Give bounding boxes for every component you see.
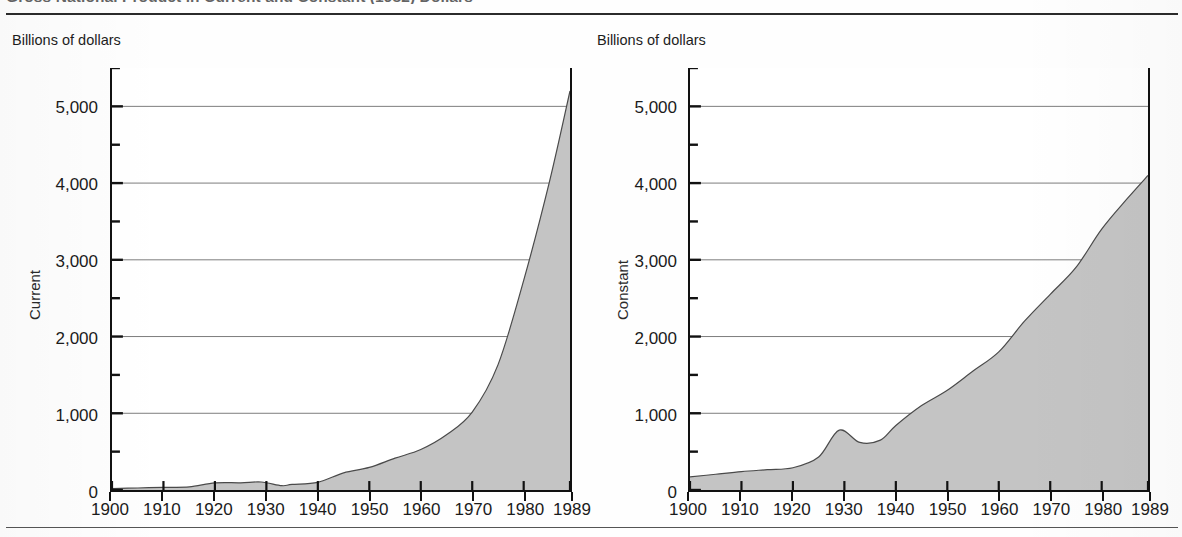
x-axis-ticks-constant: 1900191019201930194019501960197019801989: [688, 500, 1150, 524]
x-tick-label: 1910: [721, 500, 759, 520]
x-tick-label: 1950: [929, 500, 967, 520]
x-tick-label: 1910: [143, 500, 181, 520]
x-tick-label: 1920: [773, 500, 811, 520]
constant-dollars-area-chart: [690, 68, 1148, 490]
x-tick-label: 1900: [91, 500, 129, 520]
y-axis-ticks-current: 01,0002,0003,0004,0005,000: [12, 68, 98, 492]
figure-page: Gross National Product in Current and Co…: [0, 0, 1182, 537]
y-tick-label: 3,000: [55, 252, 98, 269]
y-tick-label: 0: [668, 484, 677, 501]
y-tick-label: 3,000: [634, 252, 677, 269]
y-tick-label: 5,000: [634, 98, 677, 115]
units-label-right: Billions of dollars: [597, 32, 706, 48]
panel-current: Billions of dollars 01,0002,0003,0004,00…: [0, 0, 591, 537]
x-tick-label: 1960: [981, 500, 1019, 520]
x-tick-label: 1930: [825, 500, 863, 520]
x-tick-label: 1970: [454, 500, 492, 520]
units-label-left: Billions of dollars: [12, 32, 121, 48]
series-area-fill: [690, 175, 1148, 490]
plot-area-constant: [688, 68, 1150, 492]
y-tick-label: 4,000: [55, 175, 98, 192]
panel-constant: Billions of dollars 01,0002,0003,0004,00…: [591, 0, 1182, 537]
y-tick-label: 2,000: [55, 329, 98, 346]
y-tick-label: 1,000: [55, 406, 98, 423]
y-axis-title-current: Current: [26, 270, 43, 320]
x-tick-label: 1989: [553, 500, 591, 520]
y-axis-ticks-constant: 01,0002,0003,0004,0005,000: [591, 68, 677, 492]
y-axis-title-constant: Constant: [614, 260, 631, 320]
x-tick-label: 1940: [299, 500, 337, 520]
x-tick-label: 1960: [403, 500, 441, 520]
y-tick-label: 4,000: [634, 175, 677, 192]
bottom-rule: [6, 527, 1178, 528]
y-tick-label: 5,000: [55, 98, 98, 115]
x-tick-label: 1930: [247, 500, 285, 520]
y-tick-label: 1,000: [634, 406, 677, 423]
x-tick-label: 1920: [195, 500, 233, 520]
x-tick-label: 1940: [877, 500, 915, 520]
x-tick-label: 1900: [669, 500, 707, 520]
x-tick-label: 1970: [1032, 500, 1070, 520]
x-axis-ticks-current: 1900191019201930194019501960197019801989: [110, 500, 572, 524]
plot-area-current: [110, 68, 572, 492]
x-tick-label: 1989: [1131, 500, 1169, 520]
y-tick-label: 2,000: [634, 329, 677, 346]
x-tick-label: 1980: [1084, 500, 1122, 520]
series-area-fill: [112, 91, 570, 490]
x-tick-label: 1980: [506, 500, 544, 520]
current-dollars-area-chart: [112, 68, 570, 490]
y-tick-label: 0: [89, 484, 98, 501]
x-tick-label: 1950: [351, 500, 389, 520]
